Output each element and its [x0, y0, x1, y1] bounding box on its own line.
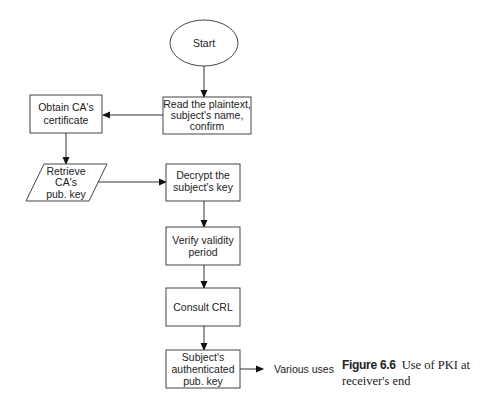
decrypt-label-line2: subject's key	[173, 181, 234, 193]
figure-number: Figure 6.6	[342, 358, 396, 372]
decrypt-label-line1: Decrypt the	[176, 169, 230, 181]
retrieve-label-line3: pub. key	[46, 188, 86, 200]
subject-label-line3: pub. key	[183, 375, 223, 387]
subject-label-line2: authenticated	[171, 363, 234, 375]
subject-label-line1: Subject's	[182, 351, 224, 363]
obtain-label-line1: Obtain CA's	[38, 101, 94, 113]
retrieve-label-line2: CA's	[55, 176, 77, 188]
read-plaintext-node: Read the plaintext, subject's name, conf…	[163, 97, 251, 134]
figure-caption: Figure 6.6Use of PKI at receiver's end	[342, 357, 482, 389]
obtain-certificate-node: Obtain CA's certificate	[30, 95, 102, 133]
start-node: Start	[170, 20, 238, 66]
retrieve-pubkey-node: Retrieve CA's pub. key	[26, 164, 107, 201]
verify-label-line2: period	[188, 246, 217, 258]
verify-label-line1: Verify validity	[172, 234, 234, 246]
read-label-line3: confirm	[190, 120, 225, 132]
consult-label: Consult CRL	[173, 301, 233, 313]
authenticated-pubkey-node: Subject's authenticated pub. key	[166, 350, 240, 388]
start-label: Start	[193, 37, 215, 49]
consult-crl-node: Consult CRL	[166, 288, 240, 326]
decrypt-key-node: Decrypt the subject's key	[166, 164, 240, 201]
various-uses-label: Various uses	[274, 363, 334, 375]
obtain-label-line2: certificate	[44, 114, 89, 126]
verify-validity-node: Verify validity period	[166, 227, 240, 265]
flowchart: Start Read the plaintext, subject's name…	[0, 0, 485, 411]
